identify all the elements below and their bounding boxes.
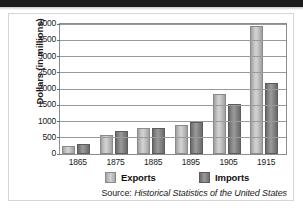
x-axis-tick-label: 1915	[249, 157, 283, 167]
gridline	[60, 137, 286, 138]
bar-exports-1905	[213, 94, 226, 154]
legend-item-imports: Imports	[199, 172, 249, 183]
y-axis-tick-label: 3500	[38, 34, 56, 44]
source-title: Historical Statistics of the United Stat…	[134, 188, 287, 198]
y-axis-tickmark	[57, 137, 60, 138]
y-axis-tickmark	[57, 40, 60, 41]
gridline	[60, 56, 286, 57]
gridline	[60, 89, 286, 90]
legend-label-exports: Exports	[121, 172, 156, 183]
x-axis-tick-label: 1905	[212, 157, 246, 167]
source-caption: Source: Historical Statistics of the Uni…	[39, 188, 287, 198]
y-axis-tickmark	[57, 56, 60, 57]
gridline	[60, 24, 286, 25]
bar-exports-1885	[137, 128, 150, 154]
x-axis-tick-label: 1885	[136, 157, 170, 167]
legend-label-imports: Imports	[215, 172, 249, 183]
y-axis-tick-label: 1500	[38, 99, 56, 109]
bar-exports-1865	[62, 146, 75, 154]
y-axis-tick-labels: 05001000150020002500300035004000	[26, 23, 56, 155]
bar-imports-1865	[77, 144, 90, 154]
y-axis-tick-label: 500	[42, 132, 56, 142]
legend-swatch-exports	[105, 172, 116, 183]
gridline	[60, 105, 286, 106]
y-axis-tick-label: 0	[51, 148, 56, 158]
bar-imports-1905	[228, 104, 241, 154]
legend-swatch-imports	[199, 172, 210, 183]
plot-area	[59, 23, 287, 155]
gridline	[60, 72, 286, 73]
bar-exports-1895	[175, 125, 188, 154]
legend-item-exports: Exports	[105, 172, 156, 183]
y-axis-tick-label: 2500	[38, 67, 56, 77]
bar-exports-1915	[250, 26, 263, 154]
y-axis-tick-label: 2000	[38, 83, 56, 93]
y-axis-tickmark	[57, 154, 60, 155]
y-axis-tick-label: 3000	[38, 51, 56, 61]
x-axis-tick-label: 1895	[174, 157, 208, 167]
y-axis-tick-label: 1000	[38, 116, 56, 126]
y-axis-tickmark	[57, 89, 60, 90]
gridline	[60, 121, 286, 122]
bar-imports-1915	[265, 83, 278, 155]
chart-legend: Exports Imports	[59, 172, 289, 186]
x-axis-tick-label: 1875	[99, 157, 133, 167]
bar-chart-figure: Dollars (in millions) 050010001500200025…	[9, 14, 293, 200]
top-band-shadow	[0, 7, 303, 10]
screenshot-page: Dollars (in millions) 050010001500200025…	[0, 0, 303, 211]
y-axis-tick-label: 4000	[38, 18, 56, 28]
y-axis-tickmark	[57, 24, 60, 25]
x-axis-tick-label: 1865	[61, 157, 95, 167]
x-axis-tick-labels: 186518751885189519051915	[59, 157, 287, 171]
bar-imports-1885	[152, 128, 165, 154]
top-dark-band	[0, 0, 303, 7]
chart-card: Dollars (in millions) 050010001500200025…	[8, 13, 294, 201]
y-axis-tickmark	[57, 72, 60, 73]
source-prefix: Source:	[101, 188, 131, 198]
y-axis-tickmark	[57, 121, 60, 122]
y-axis-tickmark	[57, 105, 60, 106]
bar-imports-1875	[115, 131, 128, 154]
gridline	[60, 40, 286, 41]
